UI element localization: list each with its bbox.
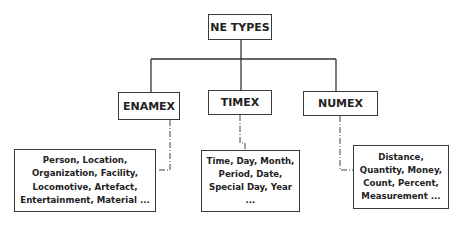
category-label: NUMEX <box>318 97 363 110</box>
category-node-numex: NUMEX <box>303 91 378 116</box>
root-label: NE TYPES <box>210 21 270 34</box>
timex-details-box: Time, Day, Month, Period, Date, Special … <box>201 150 300 212</box>
category-node-timex: TIMEX <box>208 90 272 115</box>
detail-line: Person, Location, <box>43 154 127 167</box>
detail-line: Time, Day, Month, <box>207 155 295 168</box>
detail-line: Count, Percent, <box>363 177 439 190</box>
detail-line: Quantity, Money, <box>360 164 442 177</box>
detail-line: Entertainment, Material ... <box>20 194 149 207</box>
root-node-ne-types: NE TYPES <box>208 14 272 40</box>
detail-line: Distance, <box>378 151 423 164</box>
category-label: ENAMEX <box>123 100 175 113</box>
category-node-enamex: ENAMEX <box>118 92 180 120</box>
detail-line: Period, Date, <box>219 168 283 181</box>
detail-line: ... <box>246 194 256 207</box>
category-label: TIMEX <box>221 96 260 109</box>
enamex-details-box: Person, Location, Organization, Facility… <box>14 149 156 212</box>
detail-line: Measurement ... <box>361 190 440 203</box>
numex-details-box: Distance, Quantity, Money, Count, Percen… <box>353 145 449 209</box>
detail-line: Organization, Facility, <box>32 167 138 180</box>
detail-line: Special Day, Year <box>209 181 292 194</box>
detail-line: Locomotive, Artefact, <box>33 181 138 194</box>
